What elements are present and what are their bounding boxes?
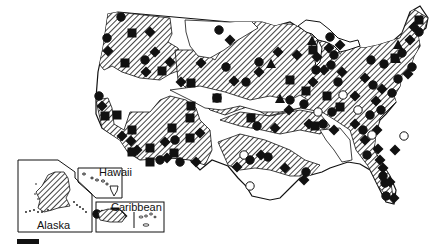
filled-circle-marker (246, 156, 254, 164)
filled-circle-marker (103, 34, 111, 42)
filled-square-marker (128, 126, 137, 135)
caribbean-label: Caribbean (111, 201, 162, 213)
filled-circle-marker (319, 120, 327, 128)
filled-square-marker (121, 59, 130, 68)
legend-swatch-partial (17, 239, 39, 244)
filled-square-marker (170, 149, 179, 158)
filled-circle-marker (367, 56, 375, 64)
filled-square-marker (247, 114, 256, 123)
filled-square-marker (101, 112, 110, 121)
filled-circle-marker (398, 49, 406, 57)
filled-circle-marker (327, 61, 335, 69)
filled-square-marker (168, 124, 177, 133)
filled-circle-marker (330, 51, 338, 59)
filled-circle-marker (215, 26, 223, 34)
open-circle-marker (368, 131, 376, 139)
open-circle-marker (246, 182, 254, 190)
filled-square-marker (311, 122, 320, 131)
filled-circle-marker (377, 106, 385, 114)
filled-square-marker (128, 29, 137, 38)
filled-circle-marker (255, 58, 263, 66)
filled-circle-marker (222, 63, 230, 71)
filled-circle-marker (394, 75, 402, 83)
filled-circle-marker (286, 96, 294, 104)
filled-diamond-marker (390, 145, 401, 156)
open-circle-marker (354, 106, 362, 114)
us-hatched-map: Alaska Hawaii Caribbean (0, 0, 448, 244)
filled-circle-marker (408, 63, 416, 71)
filled-square-marker (336, 103, 345, 112)
filled-square-marker (186, 134, 195, 143)
virgin-islands (139, 213, 156, 226)
filled-circle-marker (253, 122, 261, 130)
filled-circle-marker (328, 108, 336, 116)
hawaii-inset: Hawaii (78, 166, 132, 198)
filled-circle-marker (380, 60, 388, 68)
filled-square-marker (113, 111, 122, 120)
filled-circle-marker (388, 89, 396, 97)
filled-square-marker (302, 87, 311, 96)
filled-circle-marker (141, 56, 149, 64)
filled-circle-marker (95, 92, 103, 100)
filled-square-marker (187, 79, 196, 88)
filled-circle-marker (359, 126, 367, 134)
alaska-label: Alaska (37, 219, 71, 231)
alaska-inset: Alaska (18, 160, 92, 232)
filled-circle-marker (171, 136, 179, 144)
filled-circle-marker (366, 111, 374, 119)
alaska-landmass (36, 172, 70, 212)
filled-circle-marker (326, 33, 334, 41)
filled-square-marker (213, 94, 222, 103)
filled-circle-marker (242, 78, 250, 86)
open-circle-marker (314, 108, 322, 116)
filled-square-marker (187, 102, 196, 111)
conterminous-us (96, 6, 428, 204)
caribbean-inset: Caribbean (96, 201, 164, 232)
filled-square-marker (323, 92, 332, 101)
filled-circle-marker (264, 153, 272, 161)
filled-circle-marker (300, 100, 308, 108)
filled-circle-marker (156, 156, 164, 164)
filled-square-marker (415, 16, 424, 25)
filled-circle-marker (302, 168, 310, 176)
open-circle-marker (339, 91, 347, 99)
filled-square-marker (158, 67, 167, 76)
filled-circle-marker (369, 81, 377, 89)
filled-circle-marker (117, 13, 125, 21)
filled-circle-marker (176, 158, 184, 166)
filled-circle-marker (382, 192, 390, 200)
filled-square-marker (186, 114, 195, 123)
filled-square-marker (286, 76, 295, 85)
hawaii-label: Hawaii (99, 166, 132, 178)
filled-circle-marker (363, 151, 371, 159)
filled-square-marker (146, 144, 155, 153)
filled-circle-marker (334, 78, 342, 86)
filled-square-marker (146, 158, 155, 167)
open-circle-marker (400, 132, 408, 140)
